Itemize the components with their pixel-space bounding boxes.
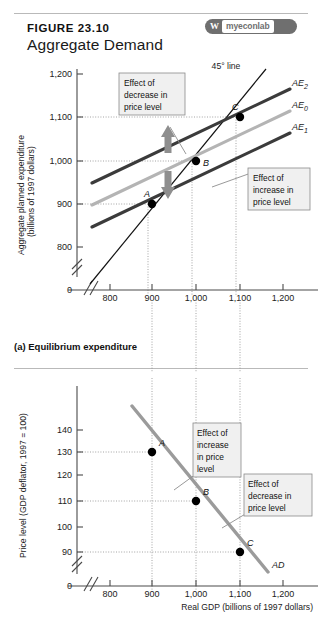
point-a-label: A (143, 189, 150, 199)
point-b-label: B (203, 487, 209, 497)
y-ticklabel-800: 800 (57, 242, 72, 252)
label-45-degree-line: 45° line (212, 61, 241, 71)
point-b-marker (192, 157, 200, 165)
point-c-marker (236, 548, 244, 556)
callout-increase-line4: level (197, 464, 214, 474)
callout-decrease-line1: Effect of (124, 78, 155, 88)
callout-increase-line1: Effect of (197, 428, 228, 438)
point-a-marker (148, 448, 156, 456)
y-ticklabel-140: 140 (57, 425, 72, 435)
callout-increase-line2: increase (197, 440, 229, 450)
x-ticklabel-1100: 1,100 (229, 589, 252, 599)
myeconlab-mark-icon: W (209, 22, 222, 31)
y-ticklabel-90: 90 (62, 547, 72, 557)
y-ticklabel-110: 110 (58, 496, 72, 506)
callout-increase-line2: increase in (253, 185, 294, 195)
curve-label-ae2: AE2 (291, 78, 308, 90)
callout-increase-line3: in price (197, 452, 224, 462)
y-axis-title: Price level (GDP deflator, 1997 = 100) (18, 413, 28, 558)
y-ticklabel-1100: 1,100 (49, 112, 72, 122)
curve-label-ae1: AE1 (291, 122, 308, 134)
callout-decrease-line2: decrease in (248, 491, 292, 501)
callout-increase-line3: price level (253, 197, 291, 207)
callout-decrease-line3: price level (248, 503, 286, 513)
point-c-label: C (247, 538, 254, 548)
point-a-label: A (158, 438, 165, 448)
y-axis-title-line2: (billions of 1997 dollars) (26, 146, 36, 237)
y-ticklabel-1000: 1,000 (49, 156, 72, 166)
callout-decrease-line3: price level (124, 102, 162, 112)
x-ticklabel-900: 900 (144, 589, 159, 599)
leader-line-increase (212, 173, 251, 187)
curve-label-ad: AD (271, 560, 285, 570)
y-ticklabel-130: 130 (57, 447, 72, 457)
y-origin-label: 0 (67, 285, 72, 295)
chart-equilibrium-expenditure: 1,200 1,100 1,000 900 800 0 800 900 1,00… (0, 55, 322, 305)
y-axis-title-line1: Aggregate planned expenditure (16, 135, 26, 255)
y-ticklabel-1200: 1,200 (49, 69, 72, 79)
point-c-marker (236, 113, 244, 121)
y-origin-label: 0 (67, 581, 72, 591)
x-ticklabel-1200: 1,200 (272, 589, 295, 599)
divider-top (14, 13, 308, 14)
x-ticklabel-1000: 1,000 (185, 589, 208, 599)
x-axis-break (84, 577, 98, 591)
callout-decrease-line2: decrease in (124, 90, 168, 100)
myeconlab-logo[interactable]: W myeconlab (205, 19, 297, 34)
x-ticklabel-800: 800 (102, 589, 117, 599)
point-b-marker (192, 497, 200, 505)
figure-title: Aggregate Demand (27, 36, 163, 54)
chart-aggregate-demand: 140 130 120 110 100 90 0 800 900 1,000 1… (0, 378, 322, 641)
callout-decrease-line1: Effect of (248, 479, 279, 489)
y-ticklabel-100: 100 (57, 522, 72, 532)
panel-connectors (0, 300, 322, 372)
point-b-label: B (203, 158, 209, 168)
figure-label: FIGURE 23.10 (27, 22, 110, 34)
figure-page: FIGURE 23.10 Aggregate Demand W myeconla… (0, 0, 322, 641)
y-ticklabel-120: 120 (57, 470, 72, 480)
myeconlab-wordmark: myeconlab (222, 20, 274, 33)
point-c-label: C (232, 102, 239, 112)
curve-label-ae0: AE0 (291, 100, 308, 112)
point-a-marker (148, 200, 156, 208)
y-ticklabel-900: 900 (57, 199, 72, 209)
callout-increase-line1: Effect of (253, 173, 284, 183)
x-axis-title: Real GDP (billions of 1997 dollars) (181, 602, 313, 612)
